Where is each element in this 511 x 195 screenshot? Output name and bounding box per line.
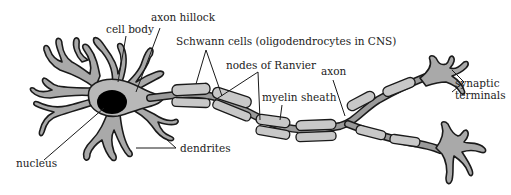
myelin-segment-6 (381, 76, 416, 98)
label-synaptic-terminals-2: terminals (455, 89, 506, 101)
label-nodes-of-ranvier: nodes of Ranvier (226, 59, 317, 71)
myelin-segment-1 (172, 83, 211, 96)
myelin-sheath-segments (172, 76, 421, 147)
neuron-diagram: cell body axon hillock Schwann cells (ol… (0, 0, 511, 195)
label-axon-hillock: axon hillock (151, 11, 216, 23)
myelin-segment-1b (172, 97, 210, 107)
label-axon: axon (321, 65, 347, 77)
label-myelin-sheath: myelin sheath (262, 91, 337, 103)
label-dendrites: dendrites (180, 142, 231, 154)
dendrite-left-lower (34, 98, 96, 136)
myelin-segment-8 (389, 134, 420, 147)
terminal-lower (436, 122, 486, 184)
label-schwann-cells: Schwann cells (oligodendrocytes in CNS) (176, 35, 396, 47)
myelin-segment-7 (355, 124, 386, 140)
label-nucleus: nucleus (16, 157, 57, 169)
synaptic-terminals (420, 56, 486, 184)
label-cell-body: cell body (106, 23, 154, 35)
dendrite-upper-left (44, 38, 100, 88)
myelin-segment-4 (296, 119, 336, 130)
label-synaptic-terminals-1: synaptic (455, 77, 500, 89)
myelin-segment-4b (296, 131, 336, 141)
